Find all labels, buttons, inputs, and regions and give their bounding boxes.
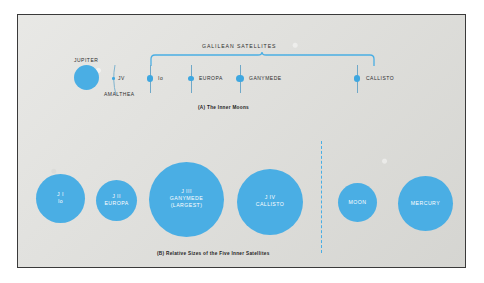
body-moon-size: MOON	[338, 183, 377, 222]
body-callisto	[354, 75, 361, 82]
caption-panel-b: (B) Relative Sizes of the Five Inner Sat…	[157, 251, 270, 256]
body-jupiter	[74, 65, 99, 90]
label-callisto: CALLISTO	[366, 75, 394, 81]
label-jv: JV	[118, 75, 125, 81]
body-ganymede-size: J III GANYMEDE (LARGEST)	[149, 162, 224, 237]
body-callisto-size-line-2: CALLISTO	[237, 201, 303, 208]
figure-frame: GALILEAN SATELLITES JUPITER JV AMALTHEA …	[17, 14, 466, 268]
label-io: Io	[158, 75, 163, 81]
body-europa-size: J II EUROPA	[96, 180, 137, 221]
body-europa-size-line-1: J II	[96, 193, 137, 200]
body-moon-size-line-1: MOON	[338, 199, 377, 206]
panel-b: J I Io J II EUROPA J III GANYMEDE (LARGE…	[20, 129, 463, 265]
panel-a: GALILEAN SATELLITES JUPITER JV AMALTHEA …	[20, 17, 463, 129]
body-ganymede-size-line-3: (LARGEST)	[149, 202, 224, 209]
body-ganymede-size-line-1: J III	[149, 188, 224, 195]
label-amalthea: AMALTHEA	[104, 91, 135, 97]
label-jupiter: JUPITER	[74, 57, 98, 63]
body-io	[147, 75, 153, 81]
galilean-bracket	[150, 53, 375, 67]
label-ganymede: GANYMEDE	[249, 75, 282, 81]
galilean-satellites-label: GALILEAN SATELLITES	[202, 43, 276, 49]
panel-b-divider	[321, 141, 322, 253]
body-io-size-line-1: J I	[36, 191, 85, 198]
body-io-size: J I Io	[36, 174, 85, 223]
body-amalthea	[112, 77, 115, 80]
figure-canvas: GALILEAN SATELLITES JUPITER JV AMALTHEA …	[20, 17, 463, 265]
body-ganymede	[236, 75, 243, 82]
body-ganymede-size-line-2: GANYMEDE	[149, 195, 224, 202]
body-mercury-size: MERCURY	[398, 176, 453, 231]
label-europa: EUROPA	[199, 75, 223, 81]
caption-panel-a: (A) The Inner Moons	[198, 105, 249, 110]
body-europa-size-line-2: EUROPA	[96, 200, 137, 207]
body-europa	[188, 76, 194, 82]
body-io-size-line-2: Io	[36, 198, 85, 205]
body-mercury-size-line-1: MERCURY	[398, 200, 453, 207]
body-callisto-size: J IV CALLISTO	[237, 169, 303, 235]
body-callisto-size-line-1: J IV	[237, 194, 303, 201]
